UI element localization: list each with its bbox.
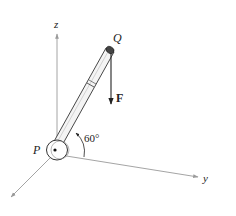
rod-force-diagram: z y Q F P 60° — [0, 0, 236, 216]
rod — [52, 48, 114, 149]
angle-label: 60° — [84, 132, 99, 144]
force-label: F — [116, 91, 123, 105]
point-q-label: Q — [113, 31, 122, 45]
z-axis-label: z — [53, 18, 59, 30]
y-axis-label: y — [202, 172, 208, 184]
point-p-label: P — [32, 143, 41, 157]
pivot-p — [47, 140, 70, 160]
x-axis — [11, 158, 50, 197]
y-axis — [60, 155, 198, 177]
